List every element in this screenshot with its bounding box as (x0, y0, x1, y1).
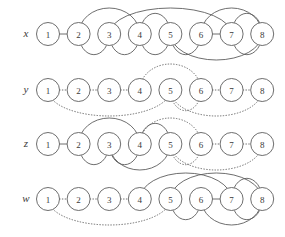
arc-diagram-figure: x12345678y12345678z12345678w12345678 (0, 0, 285, 237)
node-label-w-4: 4 (138, 195, 143, 205)
node-label-x-4: 4 (138, 30, 143, 40)
row-label-y: y (23, 83, 29, 95)
arc-row-w: w12345678 (22, 173, 273, 225)
node-label-w-6: 6 (199, 195, 204, 205)
node-label-x-7: 7 (229, 30, 234, 40)
node-label-y-4: 4 (138, 86, 143, 96)
node-label-x-1: 1 (46, 30, 51, 40)
edge-x-5-8-below (170, 34, 262, 60)
node-label-y-7: 7 (229, 86, 234, 96)
node-label-x-3: 3 (107, 30, 112, 40)
node-label-w-5: 5 (168, 195, 173, 205)
node-label-z-8: 8 (260, 140, 265, 150)
node-label-z-2: 2 (76, 140, 81, 150)
node-label-y-3: 3 (107, 86, 112, 96)
node-label-z-1: 1 (46, 140, 51, 150)
node-label-x-5: 5 (168, 30, 173, 40)
row-label-x: x (23, 27, 29, 39)
arc-row-y: y12345678 (23, 64, 274, 116)
node-group: 12345678 (37, 188, 274, 211)
node-label-z-7: 7 (229, 140, 234, 150)
edge-w-4-7-above (140, 173, 232, 199)
arc-row-z: z12345678 (23, 118, 274, 170)
node-group: 12345678 (37, 133, 274, 156)
edge-y-5-8-below (170, 90, 262, 116)
rows-layer: x12345678y12345678z12345678w12345678 (22, 8, 273, 225)
node-label-z-3: 3 (107, 140, 112, 150)
node-label-w-8: 8 (260, 195, 265, 205)
edge-w-5-8-above (170, 173, 262, 199)
row-label-w: w (22, 192, 30, 204)
node-label-w-2: 2 (76, 195, 81, 205)
node-label-w-7: 7 (229, 195, 234, 205)
node-group: 12345678 (37, 79, 274, 102)
node-label-x-8: 8 (260, 30, 265, 40)
node-label-y-1: 1 (46, 86, 51, 96)
node-label-y-2: 2 (76, 86, 81, 96)
node-label-w-1: 1 (46, 195, 51, 205)
node-label-w-3: 3 (107, 195, 112, 205)
node-label-y-5: 5 (168, 86, 173, 96)
arc-row-x: x12345678 (23, 8, 274, 60)
node-label-x-6: 6 (199, 30, 204, 40)
node-label-y-8: 8 (260, 86, 265, 96)
node-label-x-2: 2 (76, 30, 81, 40)
node-label-y-6: 6 (199, 86, 204, 96)
row-label-z: z (23, 137, 29, 149)
node-group: 12345678 (37, 23, 274, 46)
node-label-z-4: 4 (138, 140, 143, 150)
edge-z-5-8-below (170, 144, 262, 170)
arc-diagram-canvas: x12345678y12345678z12345678w12345678 (0, 0, 285, 237)
node-label-z-6: 6 (199, 140, 204, 150)
node-label-z-5: 5 (168, 140, 173, 150)
